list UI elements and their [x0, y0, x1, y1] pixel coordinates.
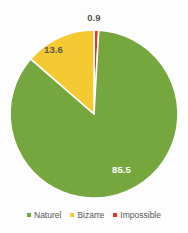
- slice-value-impossible: 0.9: [0, 13, 188, 23]
- legend-label-naturel: Naturel: [34, 211, 61, 220]
- pie-slices: [10, 30, 178, 198]
- legend-item-impossible[interactable]: Impossible: [113, 211, 161, 220]
- legend-swatch-icon-bizarre: [70, 213, 74, 217]
- legend-swatch-icon-impossible: [113, 213, 117, 217]
- pie-svg: [0, 0, 188, 205]
- legend-swatch-icon-naturel: [27, 213, 31, 217]
- pie-plot-area: 0.9 13.6 85.5: [0, 0, 188, 205]
- legend-label-bizarre: Bizarre: [77, 211, 104, 220]
- slice-value-bizarre: 13.6: [44, 45, 63, 55]
- legend-label-impossible: Impossible: [120, 211, 161, 220]
- chart-legend: Naturel Bizarre Impossible: [0, 211, 188, 220]
- legend-item-bizarre[interactable]: Bizarre: [70, 211, 104, 220]
- slice-value-naturel: 85.5: [112, 165, 131, 175]
- pie-chart: 0.9 13.6 85.5 Naturel Bizarre Impossible: [0, 0, 188, 233]
- legend-item-naturel[interactable]: Naturel: [27, 211, 61, 220]
